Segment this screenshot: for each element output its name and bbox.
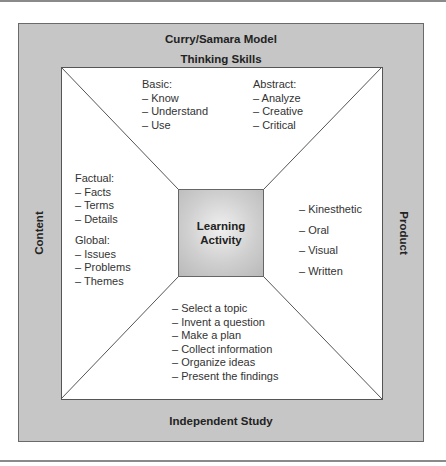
list-heading: Basic: — [142, 78, 208, 92]
abstract-skills-list: Abstract: – Analyze – Creative – Critica… — [253, 78, 303, 132]
diagram-title: Curry/Samara Model — [18, 33, 424, 45]
list-item: – Analyze — [253, 92, 303, 106]
bottom-rule — [0, 460, 446, 462]
list-item: – Problems — [75, 261, 131, 275]
thinking-skills-label: Thinking Skills — [18, 53, 424, 65]
list-heading: Factual: — [75, 172, 131, 186]
top-rule — [0, 0, 446, 2]
basic-skills-list: Basic: – Know – Understand – Use — [142, 78, 208, 132]
learning-activity-box: Learning Activity — [178, 189, 264, 277]
center-line-2: Activity — [200, 233, 242, 247]
list-item: – Understand — [142, 105, 208, 119]
list-item: – Critical — [253, 119, 303, 133]
list-item: – Select a topic — [172, 302, 278, 316]
list-heading: Global: — [75, 234, 131, 248]
center-line-1: Learning — [197, 219, 246, 233]
independent-study-label: Independent Study — [18, 415, 424, 427]
list-item: – Collect information — [172, 343, 278, 357]
list-item: – Terms — [75, 199, 131, 213]
list-item: – Visual — [299, 240, 362, 261]
list-item: – Know — [142, 92, 208, 106]
list-item: – Kinesthetic — [299, 199, 362, 220]
list-item: – Written — [299, 261, 362, 282]
list-item: – Oral — [299, 220, 362, 241]
independent-study-list: – Select a topic – Invent a question – M… — [172, 302, 278, 383]
list-item: – Organize ideas — [172, 356, 278, 370]
list-item: – Issues — [75, 248, 131, 262]
product-list: – Kinesthetic – Oral – Visual – Written — [299, 199, 362, 281]
list-item: – Present the findings — [172, 370, 278, 384]
list-item: – Facts — [75, 186, 131, 200]
list-item: – Use — [142, 119, 208, 133]
list-item: – Make a plan — [172, 329, 278, 343]
content-label: Content — [33, 211, 45, 254]
product-label: Product — [398, 211, 410, 254]
list-heading: Abstract: — [253, 78, 303, 92]
content-list: Factual: – Facts – Terms – Details Globa… — [75, 172, 131, 288]
list-item: – Invent a question — [172, 316, 278, 330]
list-item: – Creative — [253, 105, 303, 119]
list-item: – Details — [75, 213, 131, 227]
list-item: – Themes — [75, 275, 131, 289]
